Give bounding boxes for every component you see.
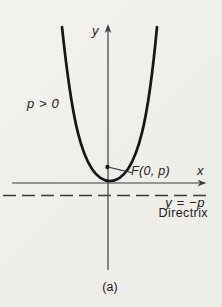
focus-label: F(0, p) (131, 165, 170, 178)
x-axis-label: x (197, 164, 204, 177)
parabola-curve (62, 27, 157, 181)
parabola-focus-directrix-figure: y x p > 0 F(0, p) y = −p Directrix (a) (0, 0, 222, 307)
y-axis-label: y (92, 24, 99, 37)
condition-label: p > 0 (27, 97, 59, 110)
figure-canvas (0, 0, 222, 307)
figure-caption: (a) (97, 281, 123, 294)
directrix-word-label: Directrix (159, 207, 208, 220)
focus-point-dot (105, 165, 109, 169)
